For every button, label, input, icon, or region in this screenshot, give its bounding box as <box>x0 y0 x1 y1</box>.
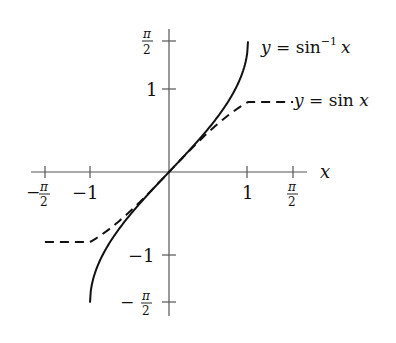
svg-text:−1: −1 <box>128 245 155 266</box>
svg-text:1: 1 <box>146 79 157 100</box>
svg-text:2: 2 <box>40 195 48 209</box>
svg-text:π: π <box>141 289 151 303</box>
svg-text:−: − <box>26 182 40 202</box>
svg-text:π: π <box>142 27 152 41</box>
sin-label: y = sin x <box>293 90 369 110</box>
svg-text:1: 1 <box>242 182 253 203</box>
svg-text:π: π <box>287 180 297 194</box>
svg-text:−1: −1 <box>72 182 99 203</box>
arcsin-label: y = sin−1x <box>260 35 351 57</box>
svg-text:2: 2 <box>142 304 150 318</box>
svg-text:π: π <box>39 180 49 194</box>
svg-text:2: 2 <box>143 43 151 57</box>
svg-text:2: 2 <box>288 195 296 209</box>
svg-text:−: − <box>120 292 134 312</box>
chart-canvas: − π 2 −1 1 π 2 x π 2 1 −1 − π 2 y = sin−… <box>0 0 396 343</box>
svg-text:y = sin x: y = sin x <box>293 90 369 110</box>
svg-text:y = sin−1x: y = sin−1x <box>260 35 351 57</box>
svg-text:x: x <box>320 161 330 182</box>
x-tick-labels: − π 2 −1 1 π 2 x <box>26 161 330 209</box>
